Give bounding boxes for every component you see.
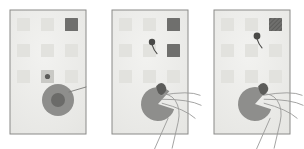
panel-approach-tile-dot-r3c2	[45, 74, 50, 79]
panel-approach-gripper-hub	[51, 93, 65, 107]
figure-canvas	[0, 0, 304, 149]
panel-grasp-tile-r1c1[interactable]	[221, 18, 234, 31]
panel-grasp-tile-r2c3[interactable]	[269, 44, 282, 57]
panel-approach-tile-r2c3[interactable]	[65, 44, 78, 57]
panel-grasp-tile-r3c1[interactable]	[221, 70, 234, 83]
panel-approach-tile-r1c2[interactable]	[41, 18, 54, 31]
panel-contact-tile-r3c1[interactable]	[119, 70, 132, 83]
panel-approach-tile-r2c2[interactable]	[41, 44, 54, 57]
panel-contact-tile-r3c2[interactable]	[143, 70, 156, 83]
panel-contact-tile-r1c1[interactable]	[119, 18, 132, 31]
panel-contact-tile-r1c2[interactable]	[143, 18, 156, 31]
panel-grasp-tile-r3c3[interactable]	[269, 70, 282, 83]
panel-approach	[10, 10, 86, 134]
panel-contact-tile-r2c1[interactable]	[119, 44, 132, 57]
panel-contact-tile-r2c3[interactable]	[167, 44, 180, 57]
panel-grasp	[214, 10, 303, 149]
panel-grasp-tile-r1c3[interactable]	[269, 18, 282, 31]
panel-approach-tile-r1c1[interactable]	[17, 18, 30, 31]
three-panel-figure: Three-panel sequence: robotic gripper ap…	[0, 0, 304, 149]
panel-approach-tile-r3c3[interactable]	[65, 70, 78, 83]
panel-grasp-tile-r2c1[interactable]	[221, 44, 234, 57]
panel-grasp-tile-r1c2[interactable]	[245, 18, 258, 31]
panel-approach-tile-r1c3[interactable]	[65, 18, 78, 31]
panel-grasp-tile-r2c2[interactable]	[245, 44, 258, 57]
panel-contact-tile-r1c3[interactable]	[167, 18, 180, 31]
panel-contact-tile-r3c3[interactable]	[167, 70, 180, 83]
panel-approach-tile-r2c1[interactable]	[17, 44, 30, 57]
panel-approach-tile-r3c1[interactable]	[17, 70, 30, 83]
panel-contact	[112, 10, 201, 149]
panel-grasp-tile-r3c2[interactable]	[245, 70, 258, 83]
